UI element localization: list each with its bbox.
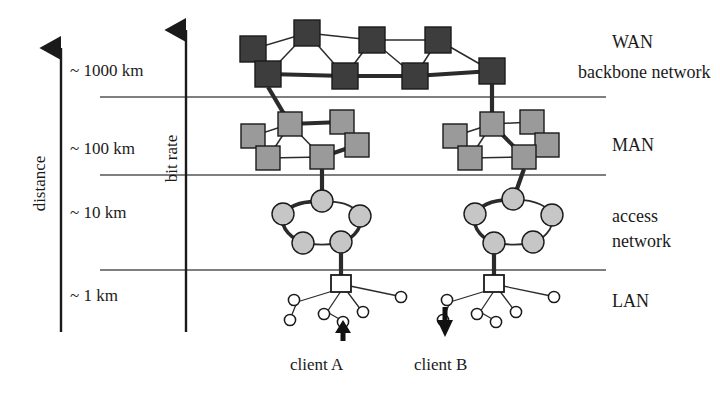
access-node [541, 204, 563, 226]
lan-node [510, 306, 521, 317]
access-node [483, 232, 505, 254]
lan-node [288, 294, 299, 305]
lan-node [395, 291, 406, 302]
man-node [480, 112, 504, 136]
man-node [241, 124, 265, 148]
lan-left [284, 275, 406, 341]
man-node [458, 146, 482, 170]
access-ring-left [272, 190, 371, 254]
lan-node [548, 291, 559, 302]
man-node [310, 145, 334, 169]
access-node [522, 231, 544, 253]
client-b-label: client B [414, 356, 467, 373]
access-node [292, 232, 314, 254]
man-cluster-right [443, 110, 559, 170]
wan-node [479, 58, 505, 84]
tier-label-wan: WAN [612, 33, 653, 51]
access-lan-trunks [341, 253, 494, 276]
man-node [256, 146, 280, 170]
access-node [349, 205, 371, 227]
lan-node [490, 316, 501, 327]
wan-node [402, 63, 428, 89]
tier-label-access: access [612, 207, 658, 225]
wan-node [240, 36, 266, 62]
lan-hub [331, 275, 351, 292]
wan-node [294, 20, 320, 46]
lan-node [441, 294, 452, 305]
client-b-arrow [437, 307, 453, 337]
wan-nodes [240, 20, 505, 89]
wan-node [332, 63, 358, 89]
diagram-canvas [0, 0, 720, 398]
client-a-label: client A [290, 356, 343, 373]
access-node [311, 190, 333, 212]
bit-rate-axis-title: bit rate [163, 121, 180, 197]
access-node [502, 188, 524, 210]
network-hierarchy-diagram: distance bit rate ~ 1000 km ~ 100 km ~ 1… [0, 0, 720, 398]
access-node [272, 203, 294, 225]
lan-node [318, 308, 329, 319]
wan-node [255, 61, 281, 87]
lan-hub [484, 275, 504, 292]
wan-node [359, 27, 385, 53]
man-node [520, 110, 544, 134]
man-node [535, 133, 559, 157]
access-node [464, 203, 486, 225]
distance-axis-title: distance [31, 141, 48, 227]
access-ring-right [464, 188, 563, 254]
tick-100km: ~ 100 km [70, 140, 135, 157]
tier-label-lan: LAN [612, 292, 649, 310]
access-node [330, 231, 352, 253]
lan-node [471, 308, 482, 319]
man-node [330, 110, 354, 134]
lan-right [437, 275, 560, 337]
man-node [443, 124, 467, 148]
lan-node [284, 314, 295, 325]
lan-node [357, 306, 368, 317]
wan-node [425, 27, 451, 53]
man-node [278, 112, 302, 136]
man-cluster-left [241, 110, 369, 170]
man-node [345, 133, 369, 157]
tier-sublabel-wan: backbone network [578, 63, 710, 81]
tick-1000km: ~ 1000 km [70, 62, 143, 79]
man-node [512, 145, 536, 169]
tier-label-man: MAN [612, 136, 654, 154]
tick-10km: ~ 10 km [70, 204, 126, 221]
tick-1km: ~ 1 km [70, 287, 118, 304]
tier-sublabel-access: network [612, 232, 671, 250]
man-access-trunks [322, 169, 524, 200]
